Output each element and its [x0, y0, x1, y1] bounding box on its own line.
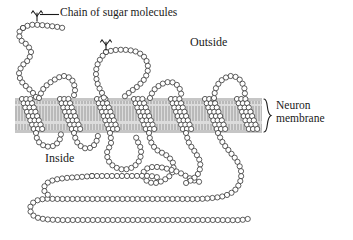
figure-canvas: Chain of sugar molecules Outside Inside …: [0, 0, 353, 240]
outside-label: Outside: [190, 36, 227, 49]
curly-brace-icon: [264, 99, 271, 132]
neuron-membrane-label: Neuron membrane: [276, 99, 325, 125]
inside-label: Inside: [45, 152, 74, 165]
membrane-label-line-2: membrane: [276, 112, 325, 125]
sugar-marker-1: [32, 11, 43, 21]
sugar-chain-label: Chain of sugar molecules: [60, 6, 177, 19]
membrane-label-line-1: Neuron: [276, 99, 325, 112]
